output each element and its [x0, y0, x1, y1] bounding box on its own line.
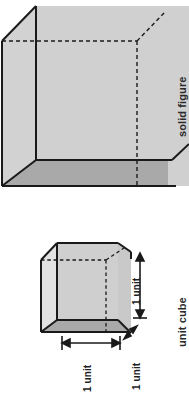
unit-cube-front-face — [57, 243, 118, 320]
unit-cube-right-face — [118, 243, 131, 332]
solid-figure-label: solid figure — [176, 77, 188, 137]
dimension-height-label: 1 unit — [131, 278, 142, 305]
diagram-canvas: solid figure unit cube 1 unit 1 unit 1 u… — [0, 0, 189, 398]
unit-cube-label: unit cube — [176, 297, 188, 347]
solid-figure-bottom-face — [2, 6, 36, 186]
dimension-width-label: 1 unit — [82, 365, 93, 392]
solid-figure-group — [0, 0, 189, 398]
dimension-depth-label: 1 unit — [131, 363, 142, 390]
dimension-width — [62, 336, 120, 350]
